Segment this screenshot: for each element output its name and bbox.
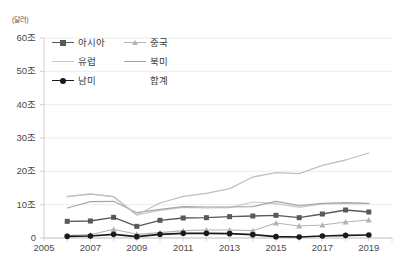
- legend-label-유럽: 유럽: [78, 57, 96, 67]
- legend-label-남미: 남미: [78, 76, 96, 86]
- series-line-합계: [67, 153, 369, 215]
- marker-아시아: [227, 214, 232, 219]
- marker-남미: [134, 234, 140, 240]
- marker-남미: [343, 233, 349, 239]
- x-axis-tick-labels: 20052007200920112013201520172019: [0, 243, 402, 263]
- marker-남미: [111, 232, 117, 238]
- legend-item-중국[interactable]: 중국: [124, 33, 196, 52]
- marker-중국: [111, 226, 117, 232]
- marker-아시아: [65, 219, 70, 224]
- legend-swatch-합계-icon: [124, 76, 146, 86]
- marker-남미: [157, 232, 163, 238]
- legend-label-북미: 북미: [150, 57, 168, 67]
- marker-남미: [296, 234, 302, 240]
- marker-남미: [64, 234, 70, 240]
- marker-아시아: [343, 208, 348, 213]
- x-tick-label-2013: 2013: [219, 243, 240, 253]
- legend-item-북미[interactable]: 북미: [124, 52, 196, 71]
- legend-item-합계[interactable]: 합계: [124, 71, 196, 90]
- x-tick-label-2005: 2005: [33, 243, 54, 253]
- marker-아시아: [250, 214, 255, 219]
- chart-legend: 아시아중국유럽북미남미합계: [52, 33, 202, 90]
- x-tick-label-2009: 2009: [126, 243, 147, 253]
- marker-아시아: [320, 212, 325, 217]
- marker-아시아: [158, 218, 163, 223]
- legend-item-아시아[interactable]: 아시아: [52, 33, 124, 52]
- legend-swatch-아시아-icon: [52, 38, 74, 48]
- line-chart: (달러) 010조20조30조40조50조60조 200520072009201…: [0, 0, 402, 278]
- x-tick-label-2007: 2007: [80, 243, 101, 253]
- marker-남미: [88, 233, 94, 239]
- marker-아시아: [134, 224, 139, 229]
- marker-남미: [204, 231, 210, 237]
- marker-아시아: [111, 215, 116, 220]
- legend-label-아시아: 아시아: [78, 38, 105, 48]
- legend-swatch-중국-icon: [124, 38, 146, 48]
- x-axis-tick-marks: [44, 238, 392, 242]
- marker-아시아: [88, 219, 93, 224]
- x-tick-label-2019: 2019: [358, 243, 379, 253]
- marker-남미: [320, 233, 326, 239]
- legend-swatch-유럽-icon: [52, 57, 74, 67]
- x-tick-label-2015: 2015: [265, 243, 286, 253]
- legend-swatch-남미-icon: [52, 76, 74, 86]
- x-tick-label-2011: 2011: [173, 243, 193, 253]
- x-tick-label-2017: 2017: [312, 243, 333, 253]
- marker-아시아: [274, 213, 279, 218]
- series-line-북미: [67, 201, 369, 212]
- legend-item-남미[interactable]: 남미: [52, 71, 124, 90]
- marker-남미: [366, 232, 372, 238]
- marker-아시아: [204, 215, 209, 220]
- legend-label-중국: 중국: [150, 38, 168, 48]
- marker-아시아: [366, 210, 371, 215]
- marker-남미: [227, 231, 233, 237]
- y-axis-tick-marks: [40, 38, 44, 238]
- legend-swatch-북미-icon: [124, 57, 146, 67]
- legend-label-합계: 합계: [150, 76, 168, 86]
- marker-아시아: [181, 216, 186, 221]
- marker-남미: [180, 231, 186, 237]
- marker-남미: [250, 232, 256, 238]
- marker-남미: [273, 234, 279, 240]
- legend-item-유럽[interactable]: 유럽: [52, 52, 124, 71]
- marker-아시아: [297, 215, 302, 220]
